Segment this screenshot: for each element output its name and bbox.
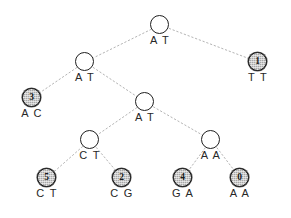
node-index-label: 2 [119, 173, 124, 183]
tree-edge [40, 67, 77, 92]
tree-edge [98, 107, 137, 134]
node-index-label: 4 [180, 173, 185, 183]
node-genotype-label: A T [135, 111, 155, 123]
node-index-label: 3 [29, 93, 34, 103]
tree-edge [169, 28, 249, 58]
node-index-label: 1 [255, 57, 260, 67]
node-genotype-label: C T [79, 149, 100, 161]
tree-edge [93, 67, 137, 96]
node-circle[interactable] [135, 92, 154, 111]
node-circle[interactable] [80, 130, 99, 149]
node-circle[interactable] [150, 15, 169, 34]
node-genotype-label: T T [248, 71, 268, 83]
node-circle[interactable] [201, 130, 220, 149]
node-genotype-label: A T [75, 71, 95, 83]
node-genotype-label: C T [36, 187, 57, 199]
node-genotype-label: A T [150, 34, 170, 46]
tree-edge [94, 29, 152, 58]
node-genotype-label: A A [230, 187, 250, 199]
node-genotype-label: G A [172, 187, 194, 199]
node-genotype-label: A A [201, 149, 221, 161]
node-circle[interactable]: 1 [248, 52, 267, 71]
node-circle[interactable] [75, 52, 94, 71]
node-index-label: 0 [237, 173, 242, 183]
node-index-label: 5 [44, 173, 49, 183]
node-circle[interactable]: 0 [230, 168, 249, 187]
tree-edge [153, 107, 203, 136]
node-genotype-label: A C [21, 107, 43, 119]
node-circle[interactable]: 3 [22, 88, 41, 107]
node-circle[interactable]: 2 [112, 168, 131, 187]
node-circle[interactable]: 5 [37, 168, 56, 187]
haplotype-tree-figure: A TA T1T T3A CA TC TA A5C T2C G4G A0A A [0, 0, 291, 218]
node-circle[interactable]: 4 [173, 168, 192, 187]
node-genotype-label: C G [110, 187, 133, 199]
